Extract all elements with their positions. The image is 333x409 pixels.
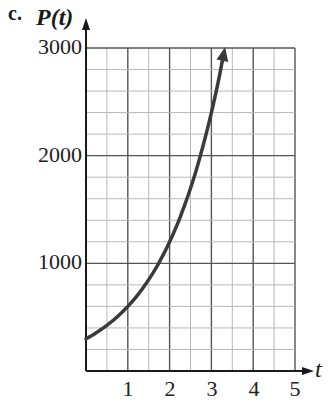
grid [86,48,295,371]
axes [82,18,314,375]
plot-area [0,0,333,409]
y-axis-arrow-icon [82,18,90,30]
curve-arrowhead [217,47,229,62]
chart: c. P(t) t 3000 2000 1000 1 2 3 4 5 [0,0,333,409]
x-axis-arrow-icon [302,367,314,375]
